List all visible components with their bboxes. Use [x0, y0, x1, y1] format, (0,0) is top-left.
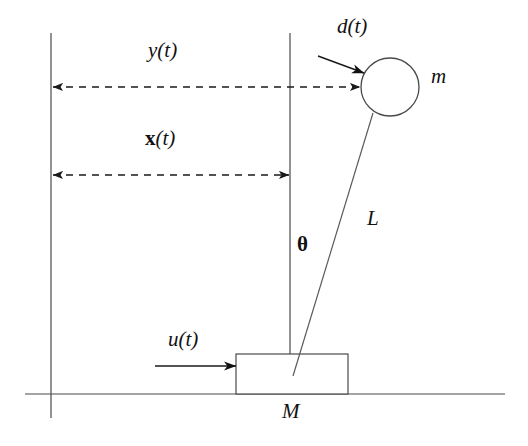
label-cart-position: x(t) [145, 128, 175, 149]
label-pendulum-mass: m [431, 66, 446, 87]
diagram-canvas [0, 0, 528, 446]
label-angle: θ [297, 234, 308, 255]
label-disturbance: d(t) [337, 16, 367, 37]
label-output-position: y(t) [148, 40, 177, 61]
disturbance-arrow [318, 56, 364, 73]
pendulum-cart-diagram: y(t) x(t) d(t) u(t) m M L θ [0, 0, 528, 446]
label-rod-length: L [367, 208, 379, 229]
label-cart-position-arg: (t) [156, 126, 176, 150]
label-control-input: u(t) [168, 329, 198, 350]
label-cart-mass: M [282, 401, 300, 422]
label-cart-position-symbol: x [145, 126, 156, 150]
pendulum-bob [361, 58, 419, 116]
cart-body [236, 354, 348, 394]
